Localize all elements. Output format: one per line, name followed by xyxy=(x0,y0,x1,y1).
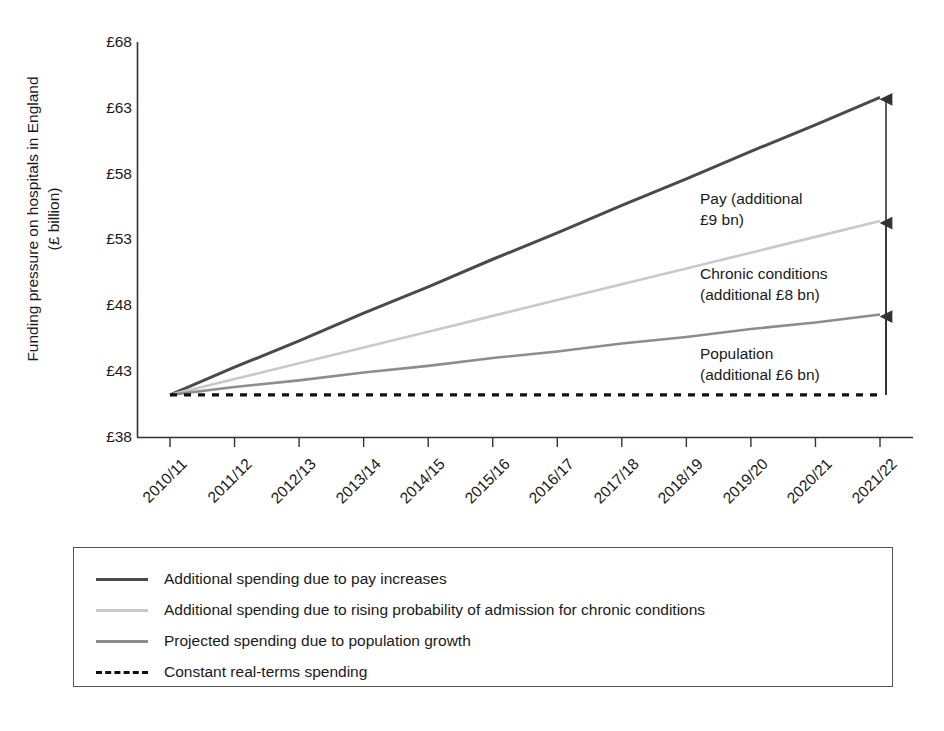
legend-item-label: Additional spending due to pay increases xyxy=(164,570,447,588)
legend-line-swatch-icon xyxy=(96,635,148,647)
x-axis-ticks xyxy=(170,437,880,447)
y-tick-label-48: £48 xyxy=(84,296,132,314)
legend-item[interactable]: Additional spending due to rising probab… xyxy=(96,599,705,621)
chart-figure: £68 £63 £58 £53 £48 £43 £38 2010/112011/… xyxy=(0,0,944,540)
annotation-population-line1: Population xyxy=(700,343,820,364)
chart-legend: Additional spending due to pay increases… xyxy=(73,547,893,687)
legend-line-swatch-icon xyxy=(96,573,148,585)
y-tick-label-68: £68 xyxy=(84,33,132,51)
legend-item-label: Constant real-terms spending xyxy=(164,663,367,681)
annotation-chronic-line2: (additional £8 bn) xyxy=(700,284,828,305)
annotation-chronic: Chronic conditions (additional £8 bn) xyxy=(700,263,828,305)
y-tick-label-63: £63 xyxy=(84,99,132,117)
annotation-pay-line1: Pay (additional xyxy=(700,188,803,209)
annotation-population-line2: (additional £6 bn) xyxy=(700,364,820,385)
y-tick-label-43: £43 xyxy=(84,362,132,380)
legend-line-swatch-icon xyxy=(96,666,148,678)
y-tick-label-38: £38 xyxy=(84,428,132,446)
legend-item-label: Projected spending due to population gro… xyxy=(164,632,471,650)
legend-item-label: Additional spending due to rising probab… xyxy=(164,601,705,619)
legend-item[interactable]: Constant real-terms spending xyxy=(96,661,367,683)
annotation-population: Population (additional £6 bn) xyxy=(700,343,820,385)
annotation-pay-line2: £9 bn) xyxy=(700,209,803,230)
legend-item[interactable]: Additional spending due to pay increases xyxy=(96,568,447,590)
legend-item[interactable]: Projected spending due to population gro… xyxy=(96,630,471,652)
y-tick-label-53: £53 xyxy=(84,230,132,248)
annotation-pay: Pay (additional £9 bn) xyxy=(700,188,803,230)
y-tick-label-58: £58 xyxy=(84,165,132,183)
annotation-chronic-line1: Chronic conditions xyxy=(700,263,828,284)
legend-line-swatch-icon xyxy=(96,604,148,616)
